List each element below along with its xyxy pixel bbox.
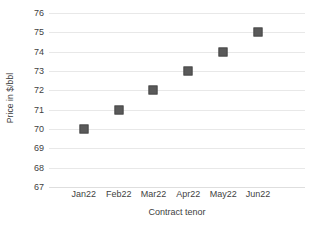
y-tick-label: 70 <box>34 125 44 134</box>
x-tick-label: Jan22 <box>72 190 97 199</box>
gridline <box>49 71 305 72</box>
data-point-marker <box>79 125 88 134</box>
gridline <box>49 110 305 111</box>
y-axis-tick-labels: 76757473727170696867 <box>20 0 47 251</box>
y-tick-label: 76 <box>34 9 44 18</box>
data-point-marker <box>114 105 123 114</box>
x-axis-title: Contract tenor <box>49 207 305 217</box>
y-axis-title: Price in $/bbl <box>0 0 20 195</box>
y-tick-label: 73 <box>34 67 44 76</box>
gridline <box>49 13 305 14</box>
x-tick-label: Jun22 <box>246 190 271 199</box>
x-tick-label: May22 <box>210 190 237 199</box>
y-tick-label: 74 <box>34 47 44 56</box>
x-tick-label: Mar22 <box>141 190 167 199</box>
data-point-marker <box>149 86 158 95</box>
x-tick-label: Feb22 <box>106 190 132 199</box>
plot-area <box>49 13 305 187</box>
data-point-marker <box>184 67 193 76</box>
y-tick-label: 68 <box>34 163 44 172</box>
gridline <box>49 90 305 91</box>
x-axis-tick-labels: Jan22Feb22Mar22Apr22May22Jun22 <box>49 190 305 208</box>
data-point-marker <box>219 47 228 56</box>
gridline <box>49 52 305 53</box>
y-tick-label: 67 <box>34 183 44 192</box>
y-axis-title-text: Price in $/bbl <box>5 72 15 123</box>
gridline <box>49 148 305 149</box>
y-tick-label: 75 <box>34 28 44 37</box>
gridline <box>49 32 305 33</box>
y-tick-label: 69 <box>34 144 44 153</box>
gridline <box>49 187 305 188</box>
gridline <box>49 168 305 169</box>
y-tick-label: 72 <box>34 86 44 95</box>
data-point-marker <box>253 28 262 37</box>
scatter-chart: Price in $/bbl 76757473727170696867 Jan2… <box>0 0 309 251</box>
y-tick-label: 71 <box>34 105 44 114</box>
x-tick-label: Apr22 <box>176 190 200 199</box>
